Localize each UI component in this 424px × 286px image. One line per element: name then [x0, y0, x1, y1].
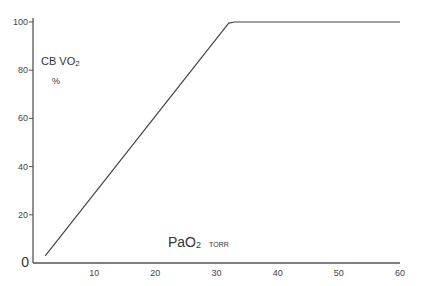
- x-tick-label: 20: [150, 268, 160, 278]
- y-tick-label: 60: [18, 113, 28, 123]
- y-tick-label: 80: [18, 65, 28, 75]
- y-tick-label: 20: [18, 210, 28, 220]
- y-axis-unit: %: [52, 76, 60, 86]
- x-tick-label: 50: [334, 268, 344, 278]
- x-tick-label: 30: [211, 268, 221, 278]
- x-axis-unit: TORR: [209, 241, 229, 248]
- y-tick-label: 0: [21, 254, 29, 270]
- x-tick-label: 40: [273, 268, 283, 278]
- data-line: [45, 22, 400, 256]
- x-axis-label: PaO2TORR: [168, 234, 229, 250]
- x-tick-label: 10: [89, 268, 99, 278]
- y-tick-label: 40: [18, 162, 28, 172]
- y-axis-label: CB VO2: [41, 55, 80, 68]
- x-tick-label: 60: [395, 268, 405, 278]
- y-tick-label: 100: [13, 17, 28, 27]
